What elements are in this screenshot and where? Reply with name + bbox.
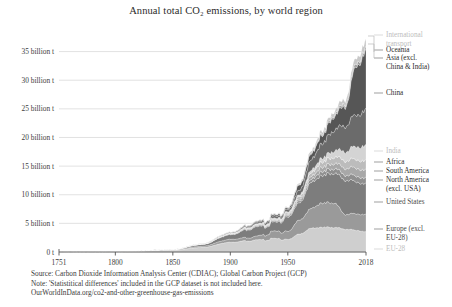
x-axis-tick-label: 1950	[280, 258, 295, 267]
footer-source: Source: Carbon Dioxide Information Analy…	[31, 269, 451, 279]
x-axis-tick-label: 1850	[165, 258, 180, 267]
legend-item-label[interactable]: China & India)	[386, 63, 430, 71]
legend-item-label[interactable]: EU-28	[386, 245, 406, 253]
legend-item-label[interactable]: United States	[386, 198, 425, 206]
x-axis-tick-label: 2018	[359, 258, 374, 267]
x-axis-tick-label: 1751	[52, 258, 67, 267]
legend-item-label[interactable]: Europe (excl.	[386, 225, 425, 233]
legend-item-label[interactable]: Africa	[386, 158, 405, 166]
legend-item-label[interactable]: South America	[386, 167, 430, 175]
footer-note: Note: 'Statistitical differences' includ…	[31, 279, 451, 289]
co2-stacked-area-chart: 0 t5 billion t10 billion t15 billion t20…	[0, 0, 452, 270]
y-axis-tick-label: 25 billion t	[22, 104, 55, 113]
legend-item-label[interactable]: North America	[386, 176, 430, 184]
footer-notes: Source: Carbon Dioxide Information Analy…	[31, 269, 451, 298]
legend-bracket	[368, 44, 374, 58]
legend-item-label[interactable]: (excl. USA)	[386, 185, 421, 193]
y-axis-tick-label: 30 billion t	[22, 76, 55, 85]
legend-item-label[interactable]: Asia (excl.	[386, 54, 417, 62]
legend-item-label[interactable]: China	[386, 89, 404, 97]
area-series	[59, 227, 366, 252]
y-axis-tick-label: 35 billion t	[22, 47, 55, 56]
legend-item-label[interactable]: India	[386, 147, 402, 155]
legend-item-label[interactable]: EU-28)	[386, 234, 408, 242]
y-axis-tick-label: 10 billion t	[22, 190, 55, 199]
y-axis-tick-label: 0 t	[46, 248, 55, 257]
legend-item-label[interactable]: International	[386, 31, 423, 39]
footer-url[interactable]: OurWorldInData.org/co2-and-other-greenho…	[31, 288, 451, 298]
legend-item-label[interactable]: Oceania	[386, 46, 410, 54]
y-axis-tick-label: 20 billion t	[22, 133, 55, 142]
chart-container: Annual total CO₂ emissions, by world reg…	[0, 0, 452, 307]
x-axis-tick-label: 1900	[223, 258, 238, 267]
y-axis-tick-label: 15 billion t	[22, 162, 55, 171]
x-axis-tick-label: 1800	[108, 258, 123, 267]
y-axis-tick-label: 5 billion t	[25, 219, 55, 228]
